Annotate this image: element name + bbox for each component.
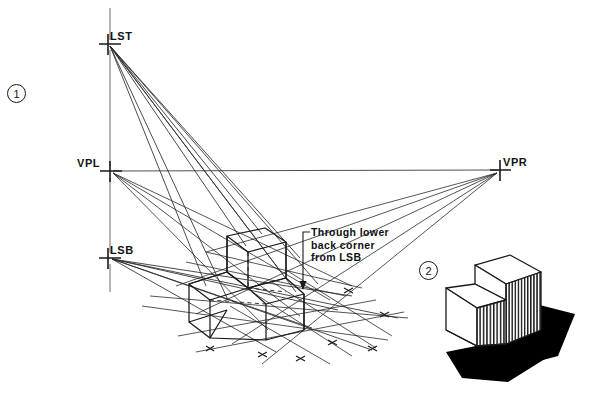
light-rays-from-lst — [110, 46, 318, 300]
callout-number-two: 2 — [419, 261, 438, 280]
annotation-text: Through lower back corner from LSB — [311, 226, 389, 264]
perspective-shadow-diagram: LST VPL VPR LSB Through lower back corne… — [0, 0, 592, 395]
horizon-line — [113, 170, 498, 171]
label-lst: LST — [110, 30, 133, 43]
point-cross-markers — [99, 34, 511, 269]
annotation-line-2: back corner — [311, 239, 389, 252]
projection-lines-from-vpr — [176, 173, 497, 364]
ground-construction-lines — [142, 252, 408, 364]
label-vpr: VPR — [503, 156, 527, 169]
callout-number-one: 1 — [7, 84, 26, 103]
label-lsb: LSB — [110, 244, 134, 257]
annotation-line-1: Through lower — [311, 226, 389, 239]
inset-solid-object — [446, 255, 575, 382]
projection-lines-from-lsb — [112, 259, 398, 352]
block-face-right-lower — [477, 300, 506, 346]
label-vpl: VPL — [77, 157, 100, 170]
annotation-line-3: from LSB — [311, 251, 389, 264]
intersection-tick-marks — [206, 288, 389, 361]
diagram-canvas — [0, 0, 592, 395]
